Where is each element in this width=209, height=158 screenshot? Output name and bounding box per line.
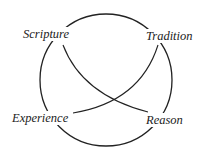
wesleyan-quadrilateral-diagram: Scripture Tradition Experience Reason <box>0 0 209 158</box>
node-experience: Experience <box>11 111 69 125</box>
edge-scripture-reason <box>63 45 148 112</box>
node-tradition: Tradition <box>145 29 194 43</box>
diagram-lines <box>0 0 209 158</box>
node-reason: Reason <box>145 113 184 127</box>
node-scripture: Scripture <box>22 27 70 41</box>
